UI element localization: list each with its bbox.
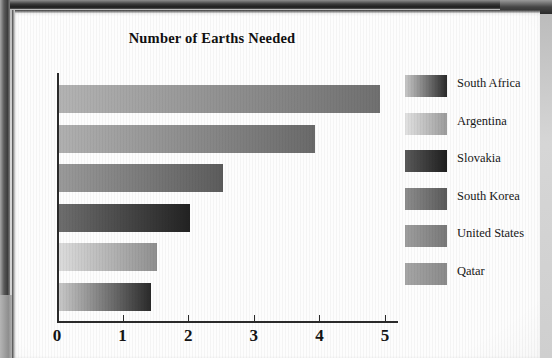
- plot-area: 012345: [57, 73, 402, 328]
- bar-chart: Number of Earths Needed 012345 South Afr…: [12, 10, 540, 358]
- x-axis-tick: [57, 315, 58, 322]
- legend-swatch: [405, 150, 447, 172]
- legend-swatch: [405, 225, 447, 247]
- legend-item: South Africa: [405, 73, 545, 111]
- x-axis-tick: [254, 315, 255, 322]
- x-axis-tick: [319, 315, 320, 322]
- legend-label: Qatar: [457, 264, 485, 279]
- x-axis-tick: [188, 315, 189, 322]
- bar: [59, 204, 190, 232]
- bar: [59, 85, 380, 113]
- book-frame-top-edge: [0, 0, 510, 9]
- book-frame-left-edge: [0, 0, 10, 300]
- x-axis-tick: [385, 315, 386, 322]
- legend-item: Qatar: [405, 261, 545, 299]
- x-axis-line: [57, 321, 398, 323]
- x-axis-tick: [123, 315, 124, 322]
- x-axis-tick-label: 1: [108, 326, 138, 346]
- legend-label: Argentina: [457, 114, 507, 129]
- legend-item: South Korea: [405, 186, 545, 224]
- scanned-chart-page: Number of Earths Needed 012345 South Afr…: [0, 0, 552, 358]
- legend-swatch: [405, 188, 447, 210]
- bar: [59, 164, 223, 192]
- x-axis-tick-label: 3: [239, 326, 269, 346]
- bar: [59, 283, 151, 311]
- legend-item: United States: [405, 223, 545, 261]
- bar-series: [59, 73, 402, 321]
- legend-item: Argentina: [405, 111, 545, 149]
- legend-item: Slovakia: [405, 148, 545, 186]
- legend-label: South Korea: [457, 189, 520, 204]
- chart-legend: South AfricaArgentinaSlovakiaSouth Korea…: [405, 73, 545, 298]
- x-axis-tick-label: 2: [173, 326, 203, 346]
- x-axis-tick-label: 0: [42, 326, 72, 346]
- chart-title: Number of Earths Needed: [12, 30, 412, 47]
- bar: [59, 125, 315, 153]
- x-axis-tick-label: 4: [304, 326, 334, 346]
- legend-label: United States: [457, 226, 524, 241]
- x-axis-tick-label: 5: [370, 326, 400, 346]
- legend-label: Slovakia: [457, 151, 501, 166]
- legend-swatch: [405, 263, 447, 285]
- legend-swatch: [405, 75, 447, 97]
- bar: [59, 243, 157, 271]
- legend-label: South Africa: [457, 76, 521, 91]
- legend-swatch: [405, 113, 447, 135]
